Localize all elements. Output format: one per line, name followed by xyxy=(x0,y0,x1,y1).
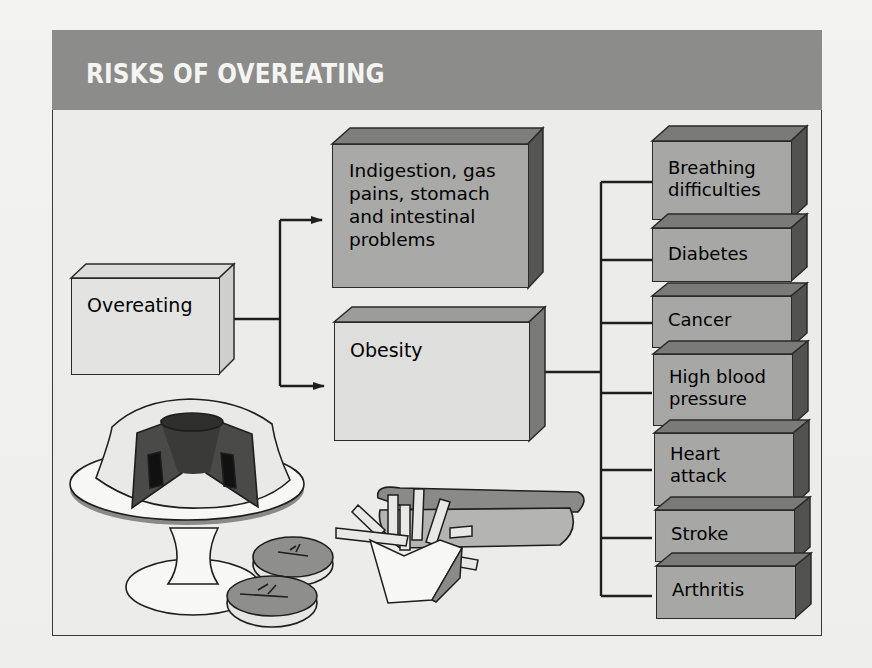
food-illustrations xyxy=(0,0,872,668)
donuts-icon xyxy=(227,537,333,627)
